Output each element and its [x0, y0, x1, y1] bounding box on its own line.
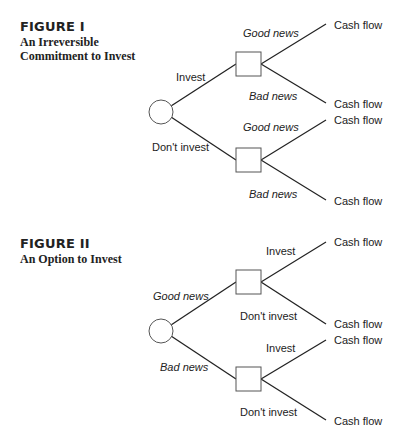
- label-dont-invest: Don't invest: [152, 141, 209, 153]
- leaf-cash-flow: Cash flow: [334, 318, 382, 330]
- leaf-cash-flow: Cash flow: [334, 98, 382, 110]
- label-good-news: Good news: [153, 290, 209, 302]
- leaf-cash-flow: Cash flow: [334, 334, 382, 346]
- label-bad-news: Bad news: [249, 188, 298, 200]
- leaf-cash-flow: Cash flow: [334, 114, 382, 126]
- label-dont-invest: Don't invest: [240, 310, 297, 322]
- edge-dont-invest: [171, 117, 236, 160]
- leaf-cash-flow: Cash flow: [334, 236, 382, 248]
- label-dont-invest: Don't invest: [240, 406, 297, 418]
- chance-node-circle: [149, 100, 173, 124]
- label-invest: Invest: [266, 342, 295, 354]
- figure2-tree: Good news Bad news Invest Don't invest I…: [149, 236, 382, 427]
- edge-good-news: [171, 282, 236, 325]
- label-invest: Invest: [176, 71, 205, 83]
- label-bad-news: Bad news: [160, 361, 209, 373]
- figure1-tree: Invest Don't invest Good news Bad news G…: [149, 19, 382, 207]
- decision-tree-figures: FIGURE I An Irreversible Commitment to I…: [0, 0, 414, 439]
- label-good-news: Good news: [243, 121, 299, 133]
- label-invest: Invest: [266, 245, 295, 257]
- leaf-cash-flow: Cash flow: [334, 415, 382, 427]
- decision-node-square: [236, 52, 261, 76]
- leaf-cash-flow: Cash flow: [334, 19, 382, 31]
- decision-node-square: [236, 367, 261, 391]
- decision-node-square: [236, 270, 261, 294]
- chance-node-circle: [149, 319, 173, 343]
- label-bad-news: Bad news: [249, 90, 298, 102]
- leaf-cash-flow: Cash flow: [334, 195, 382, 207]
- label-good-news: Good news: [243, 27, 299, 39]
- decision-node-square: [236, 148, 261, 172]
- tree-diagrams: Invest Don't invest Good news Bad news G…: [0, 0, 414, 439]
